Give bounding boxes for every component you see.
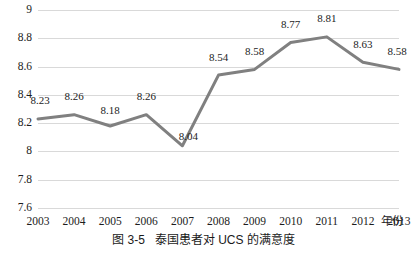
data-point-label: 8.18	[101, 105, 120, 116]
data-point-label: 8.23	[30, 95, 49, 106]
chart-plot-region: 98.88.68.48.287.87.6 8.238.268.188.268.0…	[0, 0, 407, 216]
data-point-label: 8.63	[353, 39, 372, 50]
figure-caption-text: 泰国患者对 UCS 的满意度	[155, 233, 295, 247]
x-axis-tick-label: 2011	[316, 216, 339, 228]
data-point-label: 8.54	[209, 52, 228, 63]
x-axis-tick-label: 2009	[243, 216, 266, 228]
data-point-label: 8.81	[317, 13, 336, 24]
x-axis-tick-label: 2006	[135, 216, 158, 228]
data-point-label: 8.77	[281, 19, 300, 30]
x-axis-tick-label: 2013	[388, 216, 411, 228]
gridline	[38, 208, 399, 209]
x-axis-tick-label: 2005	[99, 216, 122, 228]
x-axis-tick-labels: 年份 2003200420052006200720082009201020112…	[38, 216, 399, 232]
y-axis-tick-label: 9	[26, 4, 32, 16]
y-axis-tick-label: 8.6	[18, 61, 32, 73]
data-point-label: 8.26	[64, 91, 83, 102]
y-axis-tick-label: 8.8	[18, 33, 32, 45]
data-point-label: 8.58	[245, 46, 264, 57]
x-axis-tick-label: 2010	[279, 216, 302, 228]
x-axis-tick-label: 2004	[63, 216, 86, 228]
y-axis-tick-label: 8	[26, 146, 32, 158]
y-axis-tick-label: 8.2	[18, 117, 32, 129]
figure-caption-number: 图 3-5	[112, 233, 145, 247]
chart-data-labels: 8.238.268.188.268.048.548.588.778.818.63…	[38, 10, 399, 208]
data-point-label: 8.04	[179, 131, 198, 142]
chart-canvas: 8.238.268.188.268.048.548.588.778.818.63…	[38, 10, 399, 208]
x-axis-tick-label: 2012	[351, 216, 374, 228]
data-point-label: 8.58	[387, 46, 406, 57]
data-point-label: 8.26	[137, 91, 156, 102]
figure-caption: 图 3-5泰国患者对 UCS 的满意度	[0, 234, 407, 246]
x-axis-tick-label: 2007	[171, 216, 194, 228]
y-axis-tick-labels: 98.88.68.48.287.87.6	[0, 0, 36, 216]
y-axis-tick-label: 7.8	[18, 174, 32, 186]
x-axis-tick-label: 2003	[27, 216, 50, 228]
x-axis-tick-label: 2008	[207, 216, 230, 228]
y-axis-tick-label: 7.6	[18, 202, 32, 214]
